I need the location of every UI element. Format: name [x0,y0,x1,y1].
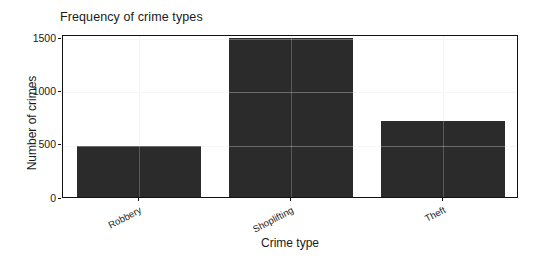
x-axis-tick-label: Theft [336,204,447,261]
plot-area [62,35,518,198]
gridline-horizontal-overlay [63,39,517,40]
gridline-vertical-overlay [291,36,292,197]
x-axis-tick-mark [290,198,291,201]
y-axis-tick-mark [58,198,61,199]
x-axis-tick-mark [442,198,443,201]
x-axis-tick-label: Shoplifting [184,204,295,261]
y-axis-tick-label: 500 [4,139,56,150]
y-axis-tick-mark [58,38,61,39]
x-axis-title: Crime type [62,236,518,250]
gridline-horizontal-overlay [63,146,517,147]
chart-title: Frequency of crime types [60,9,203,25]
chart-figure: Frequency of crime types Number of crime… [0,0,539,261]
y-axis-tick-label: 1000 [4,86,56,97]
gridline-vertical-overlay [443,36,444,197]
x-axis-tick-mark [138,198,139,201]
y-axis-tick-mark [58,144,61,145]
y-axis-tick-label: 0 [4,193,56,204]
y-axis-tick-label: 1500 [4,33,56,44]
y-axis-tick-mark [58,91,61,92]
gridline-horizontal-overlay [63,92,517,93]
y-axis-title: Number of crimes [25,43,39,203]
plot-inner [63,36,517,197]
gridline-vertical-overlay [139,36,140,197]
x-axis-tick-label: Robbery [32,204,143,261]
